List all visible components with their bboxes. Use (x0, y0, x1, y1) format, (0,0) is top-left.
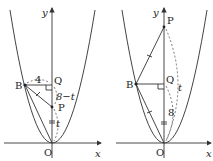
diagram-canvas: y x O B Q P 4 8−t t (0, 0, 213, 161)
segment-bp (136, 27, 164, 84)
x-axis-label: x (206, 148, 212, 159)
point-p (51, 106, 54, 109)
point-p (163, 26, 166, 29)
point-p-label: P (58, 102, 65, 113)
point-p-label: P (167, 15, 174, 26)
point-b-label: B (15, 80, 22, 91)
y-axis-label: y (152, 7, 159, 18)
right-angle-icon (158, 84, 164, 89)
length-qo-label: 8 (168, 107, 174, 118)
left-panel: y x O B Q P 4 8−t t (4, 7, 101, 159)
origin-label: O (156, 147, 164, 158)
point-q-label: Q (54, 75, 62, 86)
length-po-label: t (56, 118, 61, 129)
x-axis-label: x (95, 148, 101, 159)
length-qp-label: 8−t (56, 91, 76, 102)
length-bq-label: 4 (35, 74, 41, 85)
point-b-label: B (126, 79, 133, 90)
y-axis-label: y (41, 7, 48, 18)
dashed-arc-po (166, 29, 178, 141)
point-b (134, 82, 137, 85)
length-po-label: t (178, 82, 183, 93)
point-b (23, 83, 26, 86)
point-q-label: Q (166, 74, 174, 85)
right-panel: y x O B Q P t 8 (116, 7, 212, 159)
parabola (122, 10, 207, 143)
origin-label: O (44, 147, 52, 158)
segment-bo (136, 84, 164, 143)
right-angle-icon (46, 85, 52, 90)
